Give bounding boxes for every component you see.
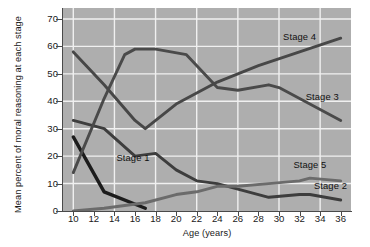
y-tick-label: 60: [32, 40, 58, 51]
y-tick-mark: [56, 19, 63, 20]
x-tick-mark: [217, 211, 218, 216]
y-tick-label: 10: [32, 178, 58, 189]
series-line-stage-3: [73, 49, 340, 172]
y-tick-label: 70: [32, 13, 58, 24]
x-tick-mark: [300, 211, 301, 216]
x-tick-mark: [114, 211, 115, 216]
y-tick-label: 50: [32, 68, 58, 79]
x-tick-mark: [135, 211, 136, 216]
y-tick-mark: [56, 156, 63, 157]
series-label-stage-1: Stage 1: [116, 152, 149, 163]
series-label-stage-4: Stage 4: [283, 31, 316, 42]
y-tick-mark: [56, 129, 63, 130]
x-tick-mark: [94, 211, 95, 216]
x-tick-mark: [73, 211, 74, 216]
series-label-stage-3: Stage 3: [306, 91, 339, 102]
y-tick-label: 30: [32, 123, 58, 134]
series-label-stage-5: Stage 5: [293, 159, 326, 170]
y-tick-mark: [56, 211, 63, 212]
series-line-stage-4: [73, 38, 340, 129]
y-tick-label: 20: [32, 150, 58, 161]
x-axis-title: Age (years): [63, 228, 351, 238]
x-tick-mark: [258, 211, 259, 216]
x-tick-mark: [176, 211, 177, 216]
x-tick-mark: [279, 211, 280, 216]
y-tick-mark: [56, 184, 63, 185]
y-tick-mark: [56, 101, 63, 102]
series-label-stage-2: Stage 2: [314, 180, 347, 191]
y-tick-label: 40: [32, 95, 58, 106]
y-tick-label: 0: [32, 205, 58, 216]
y-tick-mark: [56, 74, 63, 75]
x-axis-line: [62, 211, 352, 212]
x-tick-mark: [156, 211, 157, 216]
x-tick-mark: [197, 211, 198, 216]
y-axis-line: [62, 8, 63, 212]
x-tick-mark: [320, 211, 321, 216]
x-tick-mark: [238, 211, 239, 216]
x-tick-mark: [341, 211, 342, 216]
chart-figure: Mean percent of moral reasoning at each …: [0, 0, 370, 247]
y-axis-title: Mean percent of moral reasoning at each …: [3, 7, 33, 222]
y-tick-mark: [56, 46, 63, 47]
